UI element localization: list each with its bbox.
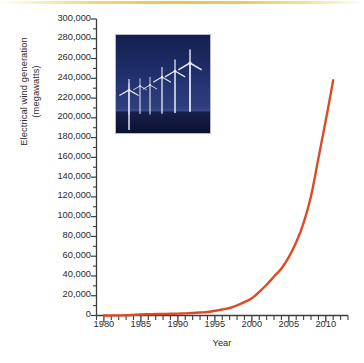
y-axis-title: Electrical wind generation (megawatts) bbox=[19, 0, 42, 192]
y-axis-title-line2: (megawatts) bbox=[30, 0, 42, 192]
x-axis-title: Year bbox=[96, 338, 348, 348]
y-axis-title-line1: Electrical wind generation bbox=[19, 0, 31, 192]
wind-turbine-photo-graphic bbox=[116, 35, 210, 133]
wind-turbine-farm-photo bbox=[115, 34, 211, 134]
wind-generation-chart-figure: 300,000280,000260,000240,000220,000200,0… bbox=[0, 0, 364, 363]
x-axis-tick-label: 2010 bbox=[304, 319, 348, 329]
